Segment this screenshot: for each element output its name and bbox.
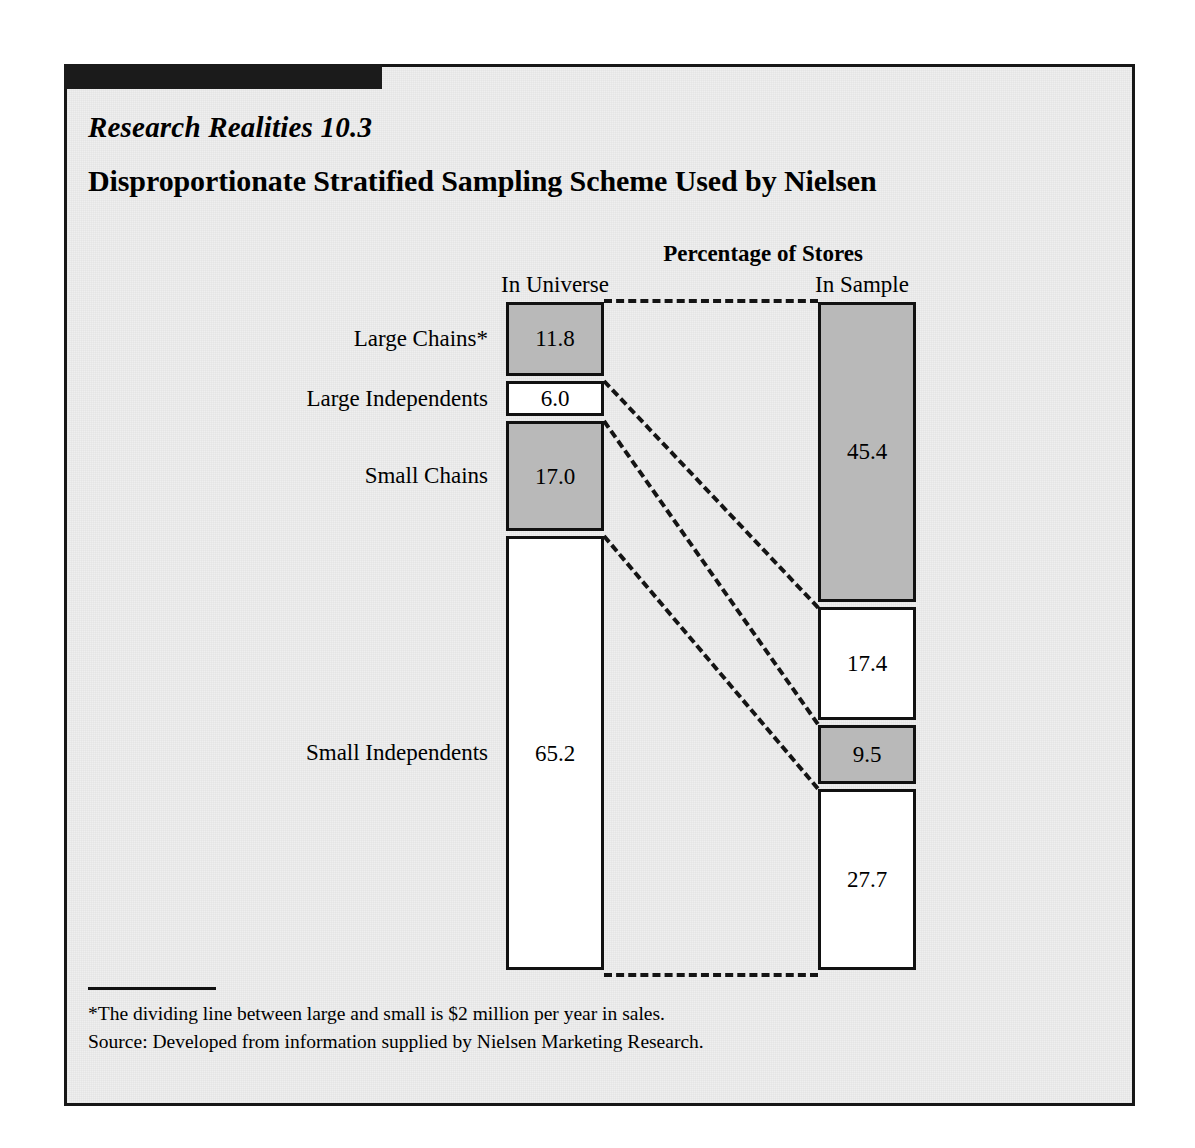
- footnote-source: Source: Developed from information suppl…: [88, 1031, 704, 1053]
- bar-in-sample-3: 27.7: [818, 789, 916, 971]
- column-header-in-sample: In Sample: [815, 272, 909, 298]
- bar-value-label: 27.7: [847, 868, 887, 891]
- stratified-sampling-chart: Percentage of Stores In Universe In Samp…: [67, 67, 1132, 1103]
- bar-value-label: 65.2: [535, 742, 575, 765]
- category-label-0: Large Chains*: [354, 326, 488, 352]
- category-label-2: Small Chains: [365, 463, 488, 489]
- bar-value-label: 6.0: [541, 387, 570, 410]
- bar-in-sample-2: 9.5: [818, 725, 916, 784]
- bar-value-label: 17.0: [535, 465, 575, 488]
- category-label-1: Large Independents: [306, 386, 488, 412]
- bar-value-label: 45.4: [847, 440, 887, 463]
- column-header-in-universe: In Universe: [501, 272, 609, 298]
- connector-line-0: [604, 299, 818, 303]
- connector-line-4: [604, 973, 818, 977]
- bar-in-universe-1: 6.0: [506, 381, 604, 416]
- bar-in-sample-1: 17.4: [818, 607, 916, 719]
- bar-in-universe-2: 17.0: [506, 421, 604, 531]
- footnote-asterisk: *The dividing line between large and sma…: [88, 1003, 665, 1025]
- bar-in-universe-3: 65.2: [506, 536, 604, 970]
- bar-value-label: 9.5: [853, 743, 882, 766]
- footnote-divider: [88, 987, 216, 990]
- chart-heading: Percentage of Stores: [603, 241, 923, 267]
- exhibit-box: Research Realities 10.3 Disproportionate…: [64, 64, 1135, 1106]
- category-label-3: Small Independents: [306, 740, 488, 766]
- bar-value-label: 11.8: [535, 327, 574, 350]
- bar-value-label: 17.4: [847, 652, 887, 675]
- bar-in-universe-0: 11.8: [506, 302, 604, 377]
- bar-in-sample-0: 45.4: [818, 302, 916, 603]
